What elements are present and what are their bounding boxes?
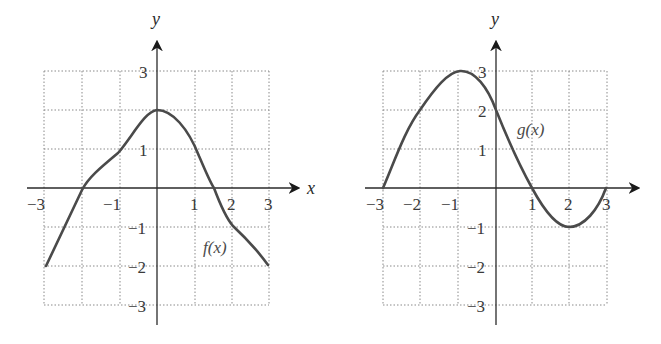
y-tick-g: −1	[467, 219, 485, 238]
x-tick-g: −1	[441, 195, 459, 214]
y-tick-g: −3	[467, 297, 485, 316]
y-tick-f: 3	[139, 63, 148, 82]
y-tick-g: −2	[467, 258, 485, 277]
y-axis-label-g: y	[489, 9, 499, 29]
x-axis-label-f: x	[306, 178, 315, 198]
function-label-f: f(x)	[203, 238, 227, 257]
y-tick-f: −3	[128, 297, 146, 316]
y-tick-g: 1	[478, 141, 487, 160]
graphs-canvas: y x −3 −1 1 2 3 3 1 −1 −2 −3 f(x)	[0, 0, 661, 344]
y-tick-f: −2	[128, 258, 146, 277]
y-tick-f: 1	[139, 141, 148, 160]
y-tick-g: 2	[478, 102, 487, 121]
x-tick-f: 3	[264, 195, 273, 214]
y-axis-label-f: y	[150, 9, 160, 29]
graph-f: y x −3 −1 1 2 3 3 1 −1 −2 −3 f(x)	[27, 9, 315, 325]
x-tick-g: 1	[528, 195, 537, 214]
x-tick-f: 2	[227, 195, 236, 214]
x-tick-g: −2	[403, 195, 421, 214]
function-label-g: g(x)	[517, 120, 545, 139]
graph-g: y −3 −2 −1 1 2 3 3 2 1 −1 −2 −3 g(x)	[365, 9, 638, 325]
x-tick-f: 1	[190, 195, 199, 214]
x-tick-g: −3	[366, 195, 384, 214]
x-tick-f: −1	[103, 195, 121, 214]
x-tick-f: −3	[27, 195, 45, 214]
y-tick-f: −1	[128, 219, 146, 238]
x-tick-g: 2	[564, 195, 573, 214]
